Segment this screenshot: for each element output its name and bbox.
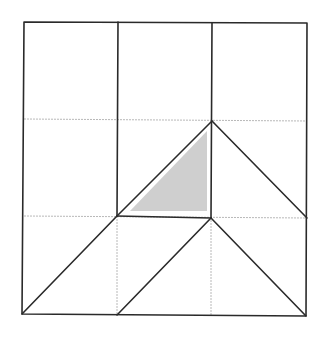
diagonal-right-lower bbox=[211, 218, 306, 316]
grid-line-h1 bbox=[24, 119, 307, 121]
diagram-canvas bbox=[0, 0, 325, 338]
diagonal-center-lower bbox=[117, 218, 211, 315]
diagonal-right-upper bbox=[212, 121, 307, 218]
vertical-line-left bbox=[117, 22, 118, 216]
horizontal-segment-middle bbox=[117, 216, 211, 218]
diagonal-left-lower bbox=[22, 216, 117, 314]
shaded-triangle bbox=[130, 131, 207, 211]
thick-lines bbox=[22, 22, 307, 316]
